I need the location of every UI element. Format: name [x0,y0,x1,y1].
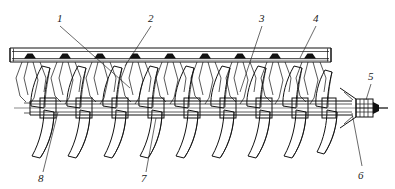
callout-label-5: 5 [368,70,374,82]
figure-canvas: 1 2 3 4 5 6 7 8 [0,0,395,189]
callout-label-3: 3 [258,12,265,24]
central-shaft [14,98,388,118]
figure-background [0,0,395,189]
callout-label-1: 1 [57,12,63,24]
callout-label-4: 4 [313,12,319,24]
callout-label-6: 6 [358,169,364,181]
callout-label-2: 2 [148,12,154,24]
rail-teeth [24,54,316,59]
callout-label-8: 8 [38,172,44,184]
callout-label-7: 7 [141,172,147,184]
technical-figure: 1 2 3 4 5 6 7 8 [0,0,395,189]
